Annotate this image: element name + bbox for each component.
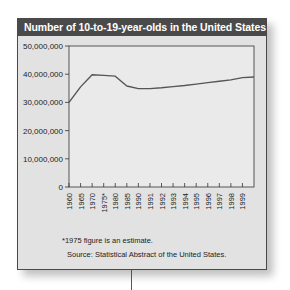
x-tick-label: 1996 xyxy=(204,193,213,210)
x-tick-label: 1998 xyxy=(227,193,236,210)
y-tick-label: 30,000,000 xyxy=(23,98,64,107)
y-tick-label: 20,000,000 xyxy=(23,127,64,136)
x-tick-label: 1995 xyxy=(192,193,201,210)
x-tick-label: 1960 xyxy=(65,193,74,210)
y-tick-label: 50,000,000 xyxy=(23,42,64,51)
x-tick-label: 1990 xyxy=(134,193,143,210)
x-tick-label: 1992 xyxy=(158,193,167,210)
x-tick-label: 1991 xyxy=(146,193,155,210)
x-tick-label: 1965 xyxy=(77,193,86,210)
plot-area xyxy=(69,46,254,187)
line-chart: 010,000,00020,000,00030,000,00040,000,00… xyxy=(0,0,290,290)
x-tick-label: 1993 xyxy=(169,193,178,210)
y-tick-label: 40,000,000 xyxy=(23,70,64,79)
x-tick-label: 1975* xyxy=(100,193,109,213)
y-tick-label: 0 xyxy=(59,183,64,192)
x-tick-label: 1985 xyxy=(123,193,132,210)
x-tick-label: 1980 xyxy=(111,193,120,210)
x-tick-label: 1997 xyxy=(215,193,224,210)
x-tick-label: 1999 xyxy=(238,193,247,210)
footnote: *1975 figure is an estimate. xyxy=(62,236,153,245)
x-tick-label: 1970 xyxy=(88,193,97,210)
source-note: Source: Statistical Abstract of the Unit… xyxy=(67,250,226,259)
y-tick-label: 10,000,000 xyxy=(23,155,64,164)
callout-line xyxy=(131,270,132,290)
x-tick-label: 1994 xyxy=(181,193,190,210)
